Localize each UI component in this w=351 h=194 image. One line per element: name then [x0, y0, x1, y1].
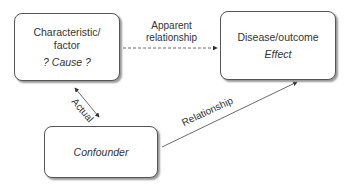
- effect-role: Effect: [265, 48, 292, 60]
- cause-label-1: Characteristic/: [33, 26, 100, 39]
- cause-role: ? Cause ?: [43, 56, 91, 68]
- cause-label-2: factor: [54, 39, 80, 52]
- cause-node: Characteristic/ factor ? Cause ?: [14, 13, 120, 81]
- apparent-label-2: relationship: [146, 32, 197, 44]
- confounder-node: Confounder: [44, 126, 158, 178]
- effect-node: Disease/outcome Effect: [220, 11, 336, 80]
- relationship-arrow: [162, 82, 297, 147]
- apparent-label: Apparent relationship: [146, 20, 197, 44]
- effect-label: Disease/outcome: [237, 31, 318, 44]
- confounder-label: Confounder: [74, 146, 129, 158]
- apparent-label-1: Apparent: [146, 20, 197, 32]
